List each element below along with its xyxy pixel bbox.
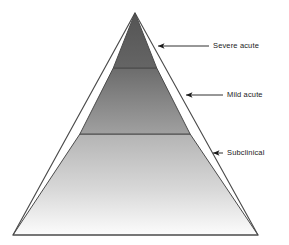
callout-label-subclinical: Subclinical bbox=[227, 149, 265, 157]
callout-label-severe-acute: Severe acute bbox=[213, 42, 259, 50]
pyramid-tier-subclinical bbox=[13, 134, 258, 235]
callout-label-mild-acute: Mild acute bbox=[227, 91, 263, 99]
pyramid-diagram bbox=[0, 0, 289, 245]
pyramid-tier-mild-acute bbox=[80, 68, 190, 134]
pyramid-figure: Severe acute Mild acute Subclinical bbox=[0, 0, 289, 245]
